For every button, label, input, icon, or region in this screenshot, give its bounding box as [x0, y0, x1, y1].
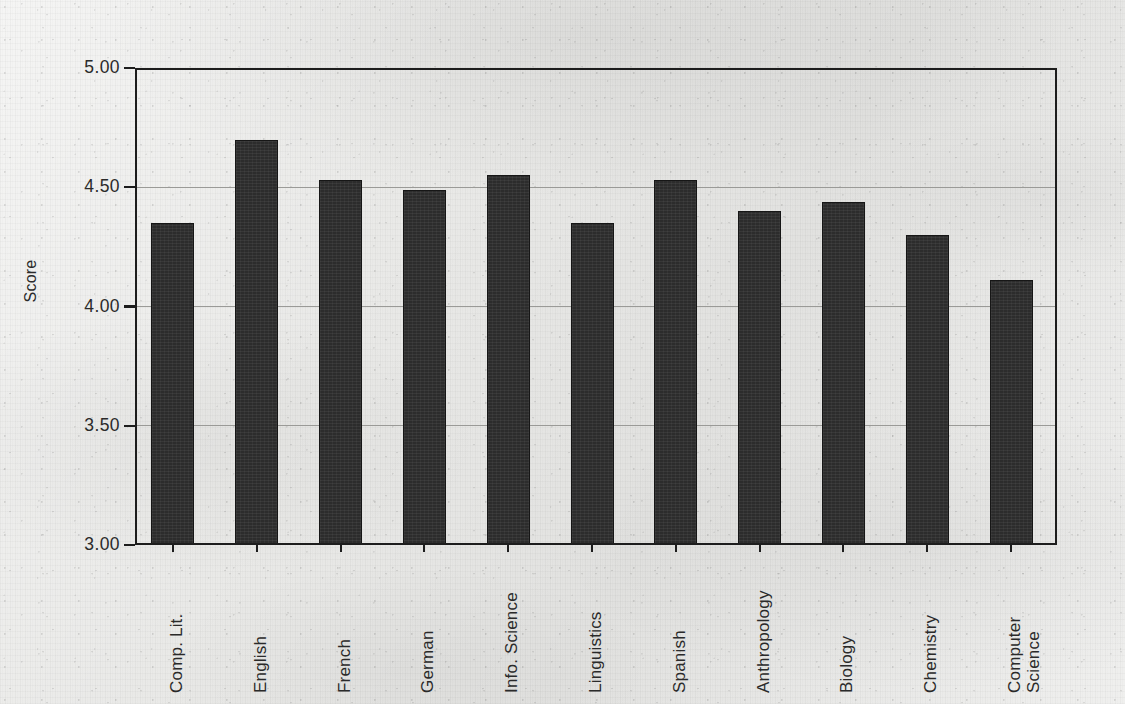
- x-tick-label: Comp. Lit.: [167, 614, 186, 693]
- y-axis-title: Score: [22, 236, 40, 326]
- y-tick-mark-5.00: [124, 67, 135, 69]
- y-tick-label-wrap: 3.50: [46, 415, 120, 436]
- x-tick-label-line: Anthropology: [754, 590, 773, 693]
- x-tick-mark: [842, 545, 844, 552]
- y-tick-label-4.50: 4.50: [46, 176, 120, 197]
- x-tick-label: English: [251, 636, 270, 693]
- y-tick-label-4.00: 4.00: [46, 296, 120, 317]
- y-tick-mark-4.50: [124, 186, 135, 188]
- x-tick-label-line: Biology: [837, 636, 856, 693]
- x-tick-mark: [759, 545, 761, 552]
- x-tick-label-line: Info. Science: [502, 592, 521, 693]
- x-tick-label: Biology: [837, 636, 856, 693]
- x-tick-mark: [423, 545, 425, 552]
- plot-area-frame: [135, 68, 1057, 545]
- bar-chart: Score 5.004.504.003.503.00 Comp. Lit.Eng…: [0, 0, 1125, 704]
- y-tick-label-3.50: 3.50: [46, 415, 120, 436]
- x-tick-label-line: French: [335, 639, 354, 693]
- y-tick-label-5.00: 5.00: [46, 57, 120, 78]
- x-tick-label-line: Science: [1024, 617, 1043, 693]
- x-tick-label: Spanish: [670, 630, 689, 693]
- y-tick-label-wrap: 5.00: [46, 57, 120, 78]
- x-tick-mark: [675, 545, 677, 552]
- x-tick-label: Chemistry: [921, 615, 940, 693]
- x-tick-mark: [172, 545, 174, 552]
- x-tick-mark: [926, 545, 928, 552]
- y-tick-mark-3.50: [124, 425, 135, 427]
- x-tick-label: Anthropology: [754, 590, 773, 693]
- x-tick-label: Linguistics: [586, 611, 605, 693]
- x-tick-label-line: Chemistry: [921, 615, 940, 693]
- x-tick-label-line: Spanish: [670, 630, 689, 693]
- x-tick-label-line: German: [418, 630, 437, 693]
- y-tick-mark-3.00: [124, 544, 135, 546]
- y-tick-label-wrap: 3.00: [46, 534, 120, 555]
- y-tick-label-wrap: 4.50: [46, 176, 120, 197]
- x-tick-mark: [256, 545, 258, 552]
- y-tick-mark-4.00: [124, 305, 135, 307]
- x-tick-label-line: Linguistics: [586, 611, 605, 693]
- y-tick-label-3.00: 3.00: [46, 534, 120, 555]
- x-tick-label-line: Computer: [1005, 617, 1024, 693]
- x-tick-mark: [507, 545, 509, 552]
- y-tick-label-wrap: 4.00: [46, 296, 120, 317]
- x-tick-label-line: Comp. Lit.: [167, 614, 186, 693]
- x-tick-mark: [1010, 545, 1012, 552]
- x-tick-label-line: English: [251, 636, 270, 693]
- x-tick-label: ComputerScience: [1005, 617, 1043, 693]
- x-tick-mark: [591, 545, 593, 552]
- x-tick-label: German: [418, 630, 437, 693]
- x-tick-label: French: [335, 639, 354, 693]
- x-tick-mark: [340, 545, 342, 552]
- x-tick-label: Info. Science: [502, 592, 521, 693]
